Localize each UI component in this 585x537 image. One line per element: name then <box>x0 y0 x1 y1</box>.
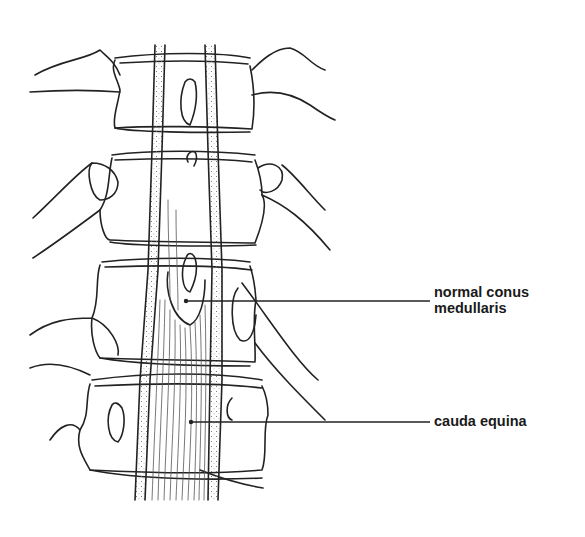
label-line-1: cauda equina <box>434 413 527 429</box>
label-line-1: normal conus <box>434 284 529 300</box>
vertebra-2 <box>33 151 330 258</box>
label-line-2: medullaris <box>434 300 529 316</box>
label-cauda-equina: cauda equina <box>434 413 527 429</box>
spine-diagram <box>0 0 585 537</box>
label-normal-conus-medullaris: normal conus medullaris <box>434 284 529 316</box>
vertebra-1 <box>30 48 335 132</box>
